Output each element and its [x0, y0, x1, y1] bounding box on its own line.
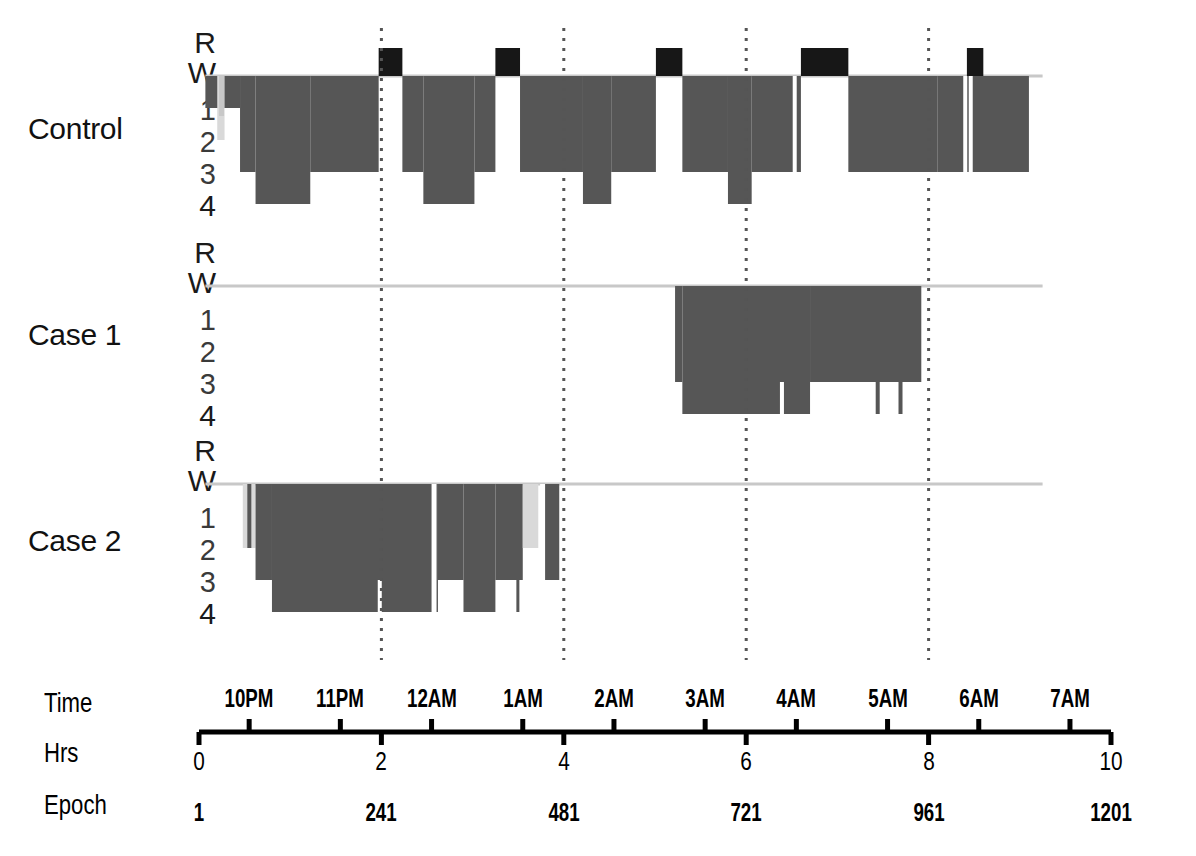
hrs-label-4: 4 [558, 746, 570, 777]
hrs-label-10: 10 [1099, 746, 1122, 777]
time-label-10PM: 10PM [225, 683, 274, 714]
epoch-label-241: 241 [366, 797, 397, 828]
time-label-7AM: 7AM [1050, 683, 1090, 714]
epoch-label-721: 721 [731, 797, 762, 828]
time-label-11PM: 11PM [316, 683, 364, 714]
time-label-3AM: 3AM [685, 683, 725, 714]
time-label-6AM: 6AM [959, 683, 999, 714]
epoch-label-961: 961 [913, 797, 944, 828]
time-axis-line [0, 712, 1196, 752]
epoch-label-1201: 1201 [1090, 797, 1132, 828]
epoch-label-1: 1 [194, 797, 204, 828]
time-label-12AM: 12AM [407, 683, 457, 714]
hrs-label-8: 8 [923, 746, 935, 777]
hypnogram-figure: Control R W 1 2 3 4 Case 1 R W 1 2 3 4 C… [0, 0, 1196, 856]
time-label-5AM: 5AM [868, 683, 908, 714]
gridlines-overlay [0, 28, 1196, 688]
hrs-label-0: 0 [193, 746, 205, 777]
axis-label-epoch: Epoch [44, 790, 107, 821]
epoch-label-481: 481 [548, 797, 579, 828]
hrs-label-2: 2 [376, 746, 388, 777]
time-label-1AM: 1AM [503, 683, 543, 714]
time-label-2AM: 2AM [594, 683, 634, 714]
hrs-label-6: 6 [740, 746, 752, 777]
time-label-4AM: 4AM [777, 683, 817, 714]
